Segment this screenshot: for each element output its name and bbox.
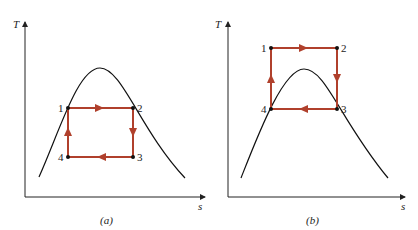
y-axis-label: T bbox=[215, 18, 222, 30]
point-3-label: 3 bbox=[341, 103, 347, 115]
point-2-label: 2 bbox=[341, 42, 347, 54]
point-2-label: 2 bbox=[137, 102, 143, 114]
caption-a: (a) bbox=[100, 214, 113, 227]
caption-b: (b) bbox=[306, 214, 319, 227]
point-1-label: 1 bbox=[58, 102, 64, 114]
panel-b: T s 1 2 3 4 (b) bbox=[215, 18, 405, 227]
cycle bbox=[271, 48, 337, 109]
point-4-label: 4 bbox=[58, 151, 64, 163]
point-4-label: 4 bbox=[261, 103, 267, 115]
state-points bbox=[66, 106, 135, 159]
direction-arrows bbox=[64, 104, 137, 161]
ts-diagrams: T s 1 2 3 4 (a) T s bbox=[0, 0, 418, 230]
cycle bbox=[68, 108, 133, 157]
y-axis-label: T bbox=[13, 18, 20, 30]
state-points bbox=[269, 46, 339, 111]
saturation-dome bbox=[241, 69, 388, 178]
x-axis-label: s bbox=[198, 200, 202, 212]
panel-a: T s 1 2 3 4 (a) bbox=[13, 18, 205, 227]
direction-arrows bbox=[267, 44, 341, 113]
point-1-label: 1 bbox=[261, 42, 267, 54]
x-axis-label: s bbox=[401, 200, 405, 212]
point-3-label: 3 bbox=[137, 151, 143, 163]
